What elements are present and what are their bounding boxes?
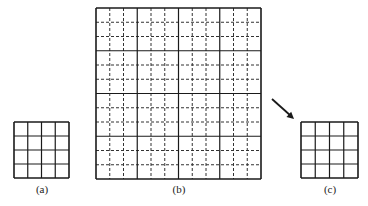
panel-c-grid	[301, 122, 358, 178]
panel-b-label: (b)	[173, 183, 186, 195]
grid-diagram	[0, 0, 368, 206]
panel-a-grid	[14, 122, 69, 178]
arrow-icon	[272, 99, 294, 119]
panel-a-label: (a)	[36, 183, 48, 195]
panel-c-label: (c)	[324, 183, 336, 195]
panel-b-grid	[96, 8, 261, 179]
